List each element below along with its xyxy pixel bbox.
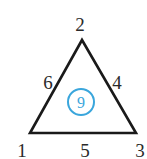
side-right-label: 4 xyxy=(112,72,122,93)
center-number: 9 xyxy=(77,94,85,111)
number-triangle-diagram: 9 2 1 3 6 4 5 xyxy=(0,0,147,159)
side-bottom-label: 5 xyxy=(80,140,90,159)
vertex-bottom-left-label: 1 xyxy=(17,140,27,159)
vertex-bottom-right-label: 3 xyxy=(135,140,145,159)
vertex-top-label: 2 xyxy=(75,14,85,35)
side-left-label: 6 xyxy=(43,72,53,93)
